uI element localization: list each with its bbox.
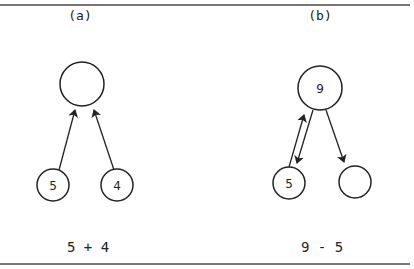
- arrow-a-right-to-top: [94, 110, 114, 170]
- panel-b: (b) 9 5 9 - 5: [273, 8, 371, 255]
- diagram-canvas: (a) 5 4 5 + 4 (b) 9 5 9 - 5: [0, 0, 414, 269]
- node-b-top: 9: [298, 66, 342, 110]
- arrow-b-top-to-left: [297, 110, 313, 163]
- panel-a-label: (a): [68, 8, 91, 23]
- node-a-right-value: 4: [113, 179, 121, 193]
- node-b-right: [339, 166, 371, 198]
- node-a-right: 4: [101, 169, 133, 201]
- node-a-left: 5: [37, 169, 69, 201]
- node-b-top-value: 9: [316, 82, 324, 96]
- node-b-left: 5: [273, 167, 305, 199]
- panel-b-label: (b): [308, 8, 331, 23]
- panel-b-caption: 9 - 5: [301, 239, 343, 255]
- arrow-b-left-to-top: [289, 115, 304, 167]
- panel-a: (a) 5 4 5 + 4: [37, 8, 133, 255]
- panel-a-caption: 5 + 4: [67, 239, 109, 255]
- node-a-left-value: 5: [49, 179, 57, 193]
- arrow-a-left-to-top: [59, 110, 75, 170]
- node-a-top: [60, 62, 104, 106]
- arrow-b-top-to-right: [326, 110, 344, 162]
- node-b-left-value: 5: [285, 177, 293, 191]
